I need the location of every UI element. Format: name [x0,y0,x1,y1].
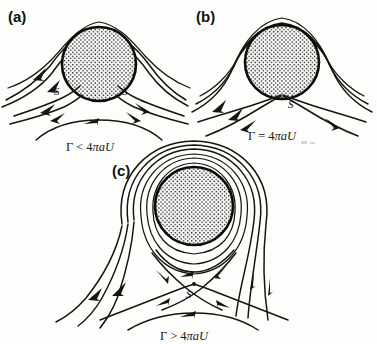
scan-artifact-1 [301,141,307,144]
stagnation-label-a-right: S [122,85,128,97]
panel-c-label: (c) [112,162,130,179]
formula-a-gamma: Γ [66,140,73,154]
scan-artifact-2 [310,142,315,144]
cylinder-c [155,167,233,245]
stagnation-label-a-left: S [54,85,60,97]
formula-c-gamma: Γ [160,329,167,343]
formula-c-velocity: U [199,329,209,343]
panel-b-label: (b) [196,8,215,25]
stagnation-point-c [192,282,196,286]
stagnation-label-b: S [288,98,294,110]
cylinder-b [245,25,319,99]
formula-b-velocity: U [287,129,297,143]
formula-c-relation: > [170,329,177,343]
formula-b-gamma: Γ [248,129,255,143]
stagnation-label-c: S [186,288,192,300]
rotating-cylinder-flow-figure: (a) S S Γ<4πaU (b) [0,0,377,344]
formula-a-velocity: U [105,140,115,154]
panel-a-label: (a) [8,8,26,25]
formula-b-relation: = [258,129,265,143]
formula-a-relation: < [76,140,83,154]
